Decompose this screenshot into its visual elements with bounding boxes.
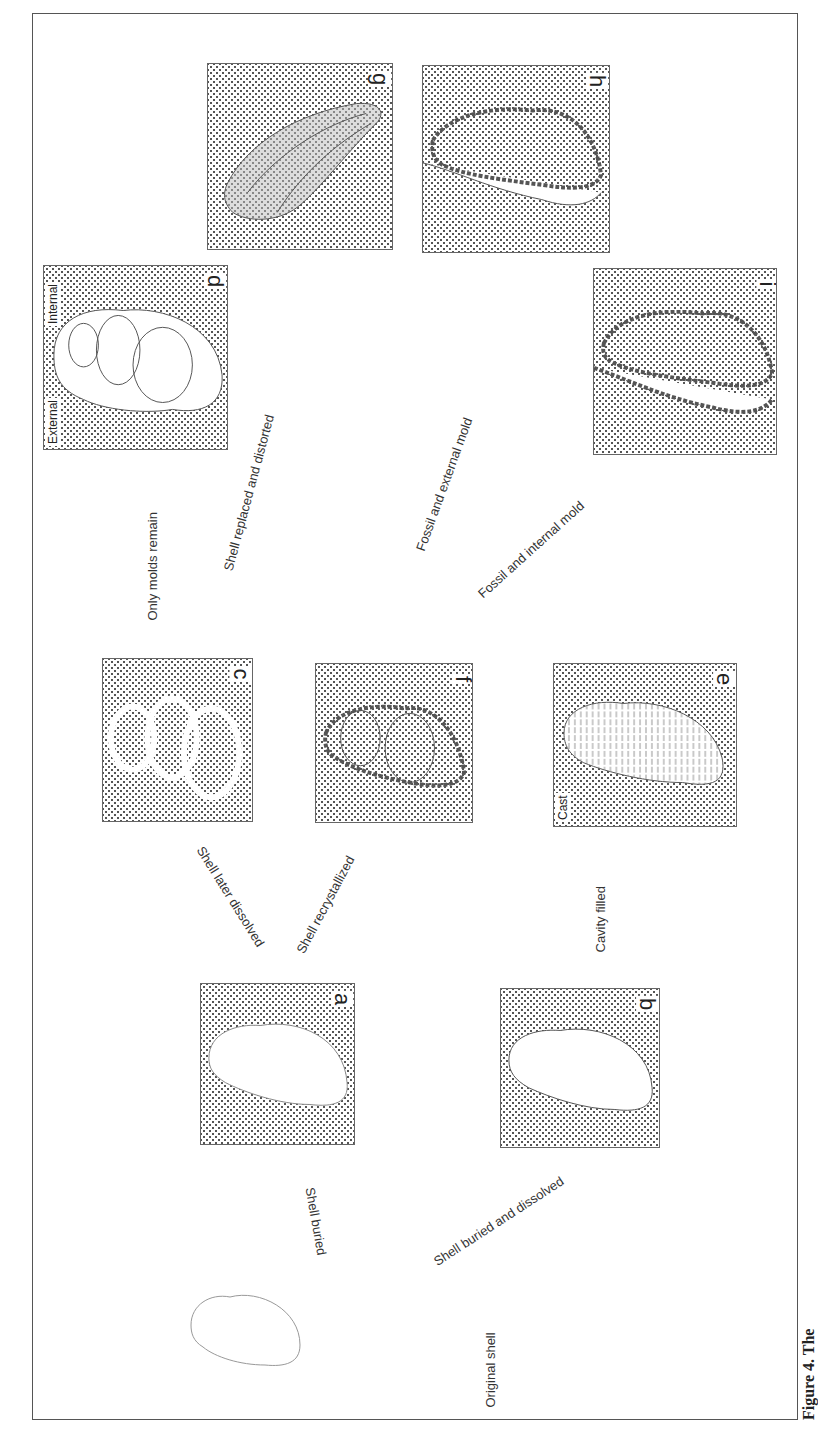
recrystallized-shell-icon bbox=[316, 664, 472, 822]
panel-g: g bbox=[207, 63, 393, 250]
panel-letter: c bbox=[230, 667, 252, 682]
panel-letter: b bbox=[636, 996, 658, 1012]
panel-letter: e bbox=[713, 671, 735, 687]
panel-letter: f bbox=[452, 674, 473, 684]
distorted-shell-icon bbox=[208, 64, 392, 249]
panel-letter: i bbox=[757, 280, 777, 289]
panel-f: f bbox=[315, 663, 473, 823]
panel-a: a bbox=[200, 983, 355, 1145]
panel-b: b bbox=[500, 988, 660, 1148]
external-label: External bbox=[46, 398, 60, 446]
original-shell-icon bbox=[185, 1285, 305, 1375]
label-only-molds-remain: Only molds remain bbox=[145, 512, 160, 620]
panel-letter: h bbox=[586, 73, 608, 89]
fossil-external-mold-icon bbox=[423, 66, 609, 252]
fossil-internal-mold-icon bbox=[594, 269, 776, 454]
panel-e: Cast e bbox=[553, 663, 737, 827]
panel-i: i bbox=[593, 268, 777, 455]
panel-d: External Internal d bbox=[43, 265, 228, 450]
external-internal-mold-icon bbox=[44, 266, 227, 449]
internal-label: Internal bbox=[46, 282, 60, 326]
panel-letter: d bbox=[204, 273, 226, 289]
panel-letter: a bbox=[331, 991, 353, 1007]
cavity-icon bbox=[501, 989, 659, 1147]
panel-letter: g bbox=[369, 71, 391, 87]
figure-caption: Figure 4. The bbox=[800, 1329, 818, 1420]
cast-label: Cast bbox=[556, 793, 570, 822]
buried-shell-icon bbox=[201, 984, 354, 1144]
label-cavity-filled: Cavity filled bbox=[593, 886, 608, 952]
panel-h: h bbox=[422, 65, 610, 253]
panel-c: c bbox=[102, 658, 253, 822]
shell-mold-icon bbox=[103, 659, 252, 821]
original-shell-label: Original shell bbox=[483, 1332, 498, 1407]
cast-icon bbox=[554, 664, 736, 826]
